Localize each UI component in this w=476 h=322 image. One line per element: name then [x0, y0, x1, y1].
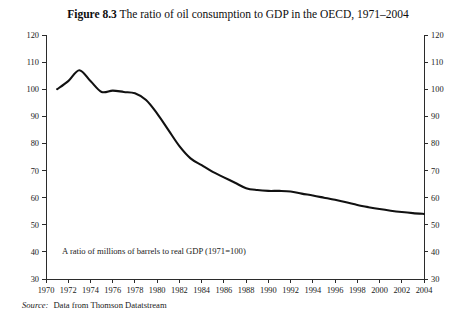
- x-tick-label: 1978: [127, 286, 144, 294]
- y-tick-label-left: 100: [26, 85, 39, 94]
- x-tick-label: 1974: [82, 286, 100, 294]
- y-tick-label-left: 60: [31, 194, 39, 203]
- y-axis-right: 30405060708090100110120: [424, 31, 444, 284]
- x-tick-label: 1970: [38, 286, 55, 294]
- x-tick-label: 2004: [416, 286, 434, 294]
- x-tick-label: 1982: [171, 286, 188, 294]
- figure-title-text: The ratio of oil consumption to GDP in t…: [120, 8, 409, 20]
- source-note: Source:Data from Thomson Datatstream: [22, 300, 167, 310]
- x-tick-label: 1990: [260, 286, 277, 294]
- y-axis-left: 30405060708090100110120: [26, 31, 46, 284]
- source-text: Data from Thomson Datatstream: [53, 300, 166, 310]
- y-tick-label-right: 90: [431, 112, 439, 121]
- x-tick-label: 1984: [193, 286, 211, 294]
- line-chart: 30405060708090100110120 3040506070809010…: [0, 22, 476, 294]
- y-tick-label-left: 30: [31, 275, 39, 284]
- y-tick-label-left: 110: [27, 58, 39, 67]
- y-tick-label-right: 70: [431, 167, 439, 176]
- y-tick-label-left: 50: [31, 221, 39, 230]
- x-tick-label: 2000: [371, 286, 388, 294]
- figure-container: Figure 8.3 The ratio of oil consumption …: [0, 0, 476, 322]
- y-tick-label-left: 80: [31, 139, 39, 148]
- y-tick-label-left: 120: [26, 31, 39, 40]
- y-tick-label-left: 90: [31, 112, 39, 121]
- x-tick-label: 1992: [282, 286, 299, 294]
- y-tick-label-right: 100: [431, 85, 444, 94]
- y-tick-label-right: 60: [431, 194, 439, 203]
- x-tick-label: 1980: [149, 286, 166, 294]
- y-tick-label-right: 110: [431, 58, 443, 67]
- data-series-group: [57, 70, 424, 214]
- y-tick-label-right: 30: [431, 275, 439, 284]
- y-tick-label-right: 120: [431, 31, 444, 40]
- x-tick-label: 1994: [304, 286, 322, 294]
- chart-annotation: A ratio of millions of barrels to real G…: [62, 246, 246, 256]
- y-tick-label-right: 80: [431, 139, 439, 148]
- x-axis: 1970197219741976197819801982198419861988…: [38, 279, 434, 294]
- chart-plot-area: 30405060708090100110120 3040506070809010…: [0, 22, 476, 294]
- y-tick-label-left: 70: [31, 167, 39, 176]
- x-tick-label: 1996: [327, 286, 344, 294]
- x-tick-label: 1976: [104, 286, 121, 294]
- x-tick-label: 1998: [349, 286, 366, 294]
- y-tick-label-left: 40: [31, 248, 39, 257]
- figure-number: Figure 8.3: [67, 8, 117, 20]
- source-label: Source:: [22, 300, 48, 310]
- x-tick-label: 1986: [216, 286, 233, 294]
- y-tick-label-right: 50: [431, 221, 439, 230]
- y-tick-label-right: 40: [431, 248, 439, 257]
- figure-caption: Figure 8.3 The ratio of oil consumption …: [0, 7, 476, 21]
- x-tick-label: 1972: [60, 286, 77, 294]
- x-tick-label: 2002: [393, 286, 410, 294]
- x-tick-label: 1988: [238, 286, 255, 294]
- series-line: [57, 70, 424, 214]
